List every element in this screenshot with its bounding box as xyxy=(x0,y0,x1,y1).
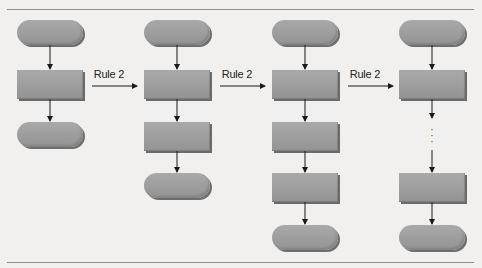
rule2-label-3: Rule 2 xyxy=(340,68,390,80)
col4-action-rect-1 xyxy=(399,70,465,99)
rule2-label-2: Rule 2 xyxy=(212,68,262,80)
col2-end-oval xyxy=(144,173,210,198)
col3-start-oval xyxy=(272,20,338,45)
col4-start-oval xyxy=(399,20,465,45)
col2-action-rect-2 xyxy=(144,122,210,151)
rule2-label-1: Rule 2 xyxy=(84,68,134,80)
col1-start-oval xyxy=(17,20,83,45)
col4-ellipsis-dots: ··· xyxy=(430,127,434,145)
col2-action-rect-1 xyxy=(144,70,210,99)
col4-action-rect-n xyxy=(399,173,465,202)
col3-action-rect-3 xyxy=(272,173,338,202)
bottom-rule-line xyxy=(7,262,474,263)
col3-action-rect-1 xyxy=(272,70,338,99)
col1-action-rect-1 xyxy=(17,70,83,99)
col1-end-oval xyxy=(17,122,83,147)
top-rule-line xyxy=(7,9,474,10)
col3-action-rect-2 xyxy=(272,122,338,151)
stacking-rule-diagram: ··· Rule 2 Rule 2 Rule 2 xyxy=(0,0,482,268)
col4-end-oval xyxy=(399,225,465,250)
col3-end-oval xyxy=(272,225,338,250)
col2-start-oval xyxy=(144,20,210,45)
